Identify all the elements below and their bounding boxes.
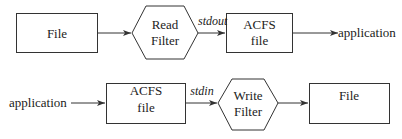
stdin-label: stdin: [186, 84, 218, 99]
read-filter-label-line1: Read: [132, 17, 198, 32]
stdout-label: stdout: [198, 14, 226, 29]
application-label-bottom: application: [9, 95, 67, 110]
acfs-top-label-line1: ACFS: [226, 17, 293, 32]
acfs-top-label-line2: file: [226, 33, 293, 48]
acfs-bottom-label-line2: file: [106, 100, 186, 115]
write-filter-label-line1: Write: [218, 88, 278, 103]
file-label-bottom: File: [309, 88, 389, 103]
read-filter-label-line2: Filter: [132, 33, 198, 48]
application-label-top: application: [338, 25, 396, 40]
write-filter-label-line2: Filter: [218, 104, 278, 119]
acfs-bottom-label-line1: ACFS: [106, 83, 186, 98]
file-label-top: File: [16, 26, 98, 41]
